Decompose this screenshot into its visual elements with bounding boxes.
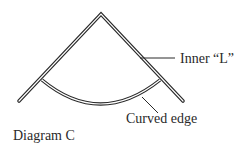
curved-edge-shape: [42, 80, 160, 104]
curved-edge-label: Curved edge: [126, 111, 197, 126]
inner-l-label: Inner “L”: [180, 51, 234, 66]
diagram-c: Inner “L” Curved edge Diagram C: [0, 0, 249, 149]
diagram-title: Diagram C: [13, 128, 75, 143]
